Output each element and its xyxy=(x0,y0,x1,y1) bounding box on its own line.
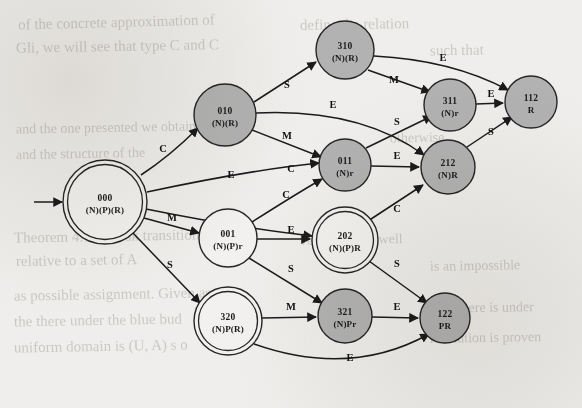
node-attrs-label: (N)(R) xyxy=(332,53,358,63)
edge-label: S xyxy=(394,116,400,127)
edge-path xyxy=(372,317,418,318)
node-code-label: 320 xyxy=(221,312,236,322)
node-code-label: 001 xyxy=(221,229,236,239)
edge-011-to-212: E xyxy=(371,150,419,167)
state-node-112[interactable]: 112R xyxy=(505,76,557,128)
state-node-311[interactable]: 311(N)r xyxy=(424,79,476,131)
state-node-310[interactable]: 310(N)(R) xyxy=(316,21,374,79)
state-node-212[interactable]: 212(N)R xyxy=(421,140,475,194)
edge-202-to-212: C xyxy=(368,185,423,221)
edge-label: E xyxy=(439,52,446,63)
edge-311-to-112: E xyxy=(476,88,503,104)
state-node-122[interactable]: 122PR xyxy=(420,293,470,343)
edge-001-to-202: E xyxy=(257,224,310,239)
node-code-label: 122 xyxy=(438,309,453,319)
edge-310-to-311: M xyxy=(368,70,430,92)
edge-label: E xyxy=(329,99,336,110)
edge-label: E xyxy=(346,352,353,363)
edge-label: S xyxy=(167,259,173,270)
edge-000-to-010: C xyxy=(141,128,198,175)
edge-path xyxy=(262,317,316,318)
state-node-202[interactable]: 202(N)(P)R xyxy=(312,207,378,273)
state-node-320[interactable]: 320(N)P(R) xyxy=(194,287,262,355)
node-code-label: 112 xyxy=(524,93,538,103)
node-code-label: 321 xyxy=(338,307,353,317)
edge-label: E xyxy=(393,150,400,161)
edge-path xyxy=(249,258,322,303)
edge-label: M xyxy=(286,301,296,312)
edge-000-to-001: M xyxy=(144,212,199,233)
state-node-001[interactable]: 001(N)(P)r xyxy=(199,209,257,267)
edge-path xyxy=(476,103,503,104)
edge-label: C xyxy=(159,143,167,154)
edge-000-to-320: S xyxy=(133,233,200,303)
node-attrs-label: (N)Pr xyxy=(334,319,357,329)
node-code-label: 202 xyxy=(338,231,353,241)
edge-path xyxy=(368,70,430,92)
edge-label: E xyxy=(487,88,494,99)
node-code-label: 212 xyxy=(441,158,456,168)
state-node-010[interactable]: 010(N)(R) xyxy=(194,84,256,146)
node-attrs-label: (N)R xyxy=(438,170,458,180)
edge-321-to-122: E xyxy=(372,301,418,318)
edge-010-to-011: M xyxy=(252,130,321,157)
edge-label: C xyxy=(393,203,401,214)
node-attrs-label: PR xyxy=(439,321,452,331)
node-attrs-label: (N)(P)r xyxy=(213,241,242,251)
edge-label: C xyxy=(287,163,295,174)
edge-label: S xyxy=(284,79,290,90)
node-attrs-label: (N)(R) xyxy=(212,118,238,128)
edge-path xyxy=(141,128,198,175)
nodes-layer: 000(N)(P)(R)010(N)(R)001(N)(P)r320(N)P(R… xyxy=(63,21,557,355)
node-code-label: 310 xyxy=(338,41,353,51)
node-attrs-label: R xyxy=(528,105,535,115)
edge-011-to-311: S xyxy=(366,116,432,148)
edge-label: E xyxy=(227,169,234,180)
edge-label: S xyxy=(288,263,294,274)
state-node-011[interactable]: 011(N)r xyxy=(319,139,371,191)
edge-path xyxy=(252,179,322,222)
edge-212-to-112: S xyxy=(467,117,512,147)
edge-202-to-122: S xyxy=(369,258,427,303)
edge-label: M xyxy=(389,74,399,85)
state-node-000[interactable]: 000(N)(P)(R) xyxy=(63,160,147,244)
edge-label: M xyxy=(282,130,292,141)
edge-label: S xyxy=(394,258,400,269)
edge-label: E xyxy=(287,224,294,235)
edge-label: E xyxy=(393,301,400,312)
node-attrs-label: (N)P(R) xyxy=(212,324,244,334)
node-code-label: 311 xyxy=(443,96,457,106)
node-attrs-label: (N)r xyxy=(441,108,458,118)
edge-010-to-310: S xyxy=(254,62,316,102)
edge-001-to-321: S xyxy=(249,258,322,303)
node-attrs-label: (N)(P)(R) xyxy=(86,205,124,215)
edge-320-to-321: M xyxy=(262,301,316,318)
edge-label: S xyxy=(488,126,494,137)
edge-path xyxy=(371,166,419,167)
node-code-label: 010 xyxy=(218,106,233,116)
node-attrs-label: (N)r xyxy=(336,168,353,178)
diagram-canvas: of the concrete approximation ofGli, we … xyxy=(0,0,582,408)
state-diagram-svg: CECMSSEMEMSECESCSMEESE 000(N)(P)(R)010(N… xyxy=(0,0,582,408)
node-code-label: 011 xyxy=(338,156,352,166)
edge-label: M xyxy=(167,212,177,223)
node-code-label: 000 xyxy=(98,193,113,203)
state-node-321[interactable]: 321(N)Pr xyxy=(318,289,372,343)
node-attrs-label: (N)(P)R xyxy=(329,243,361,253)
